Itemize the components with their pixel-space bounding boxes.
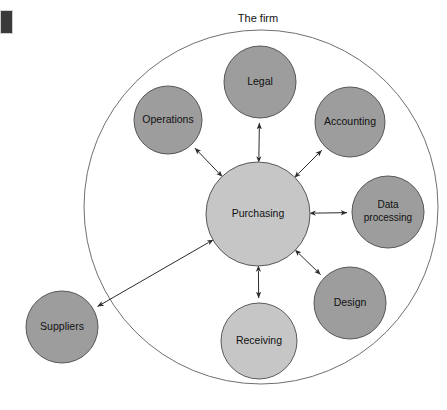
node-purchasing[interactable]: Purchasing bbox=[206, 162, 310, 266]
organization-relationship-diagram: The firm PurchasingLegalOperationsAccoun… bbox=[0, 0, 447, 410]
page-title: The firm bbox=[238, 12, 278, 24]
node-label-suppliers: Suppliers bbox=[40, 320, 84, 332]
node-label-data-processing: processing bbox=[364, 212, 412, 223]
node-label-receiving: Receiving bbox=[236, 334, 282, 346]
node-label-purchasing: Purchasing bbox=[232, 207, 285, 219]
node-label-accounting: Accounting bbox=[324, 115, 376, 127]
node-label-design: Design bbox=[334, 296, 367, 308]
connector-purchasing-to-legal bbox=[259, 123, 260, 157]
node-design[interactable]: Design bbox=[314, 267, 386, 339]
node-data-processing[interactable]: Dataprocessing bbox=[352, 176, 424, 248]
node-receiving[interactable]: Receiving bbox=[221, 303, 297, 379]
node-suppliers[interactable]: Suppliers bbox=[26, 291, 98, 363]
node-label-operations: Operations bbox=[142, 113, 193, 125]
figure-container: The firm PurchasingLegalOperationsAccoun… bbox=[0, 0, 447, 410]
node-label-data-processing: Data bbox=[377, 199, 399, 210]
node-operations[interactable]: Operations bbox=[134, 86, 202, 154]
node-accounting[interactable]: Accounting bbox=[315, 87, 385, 157]
node-legal[interactable]: Legal bbox=[224, 46, 296, 118]
node-label-legal: Legal bbox=[247, 75, 273, 87]
